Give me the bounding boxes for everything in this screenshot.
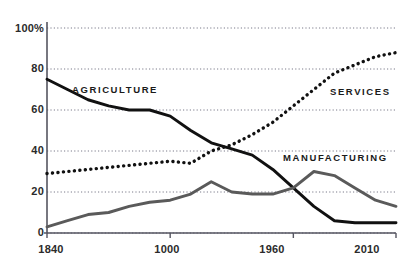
series-label-agriculture: AGRICULTURE bbox=[72, 84, 158, 95]
series-label-manufacturing: MANUFACTURING bbox=[283, 152, 388, 163]
x-tick-label-1900: 1000 bbox=[140, 243, 194, 255]
y-tick-label-100: 100% bbox=[4, 22, 44, 34]
series-label-services: SERVICES bbox=[330, 86, 391, 97]
x-tick-label-2010: 2010 bbox=[340, 243, 394, 255]
series-line-manufacturing bbox=[47, 172, 396, 227]
y-tick-label-40: 40 bbox=[4, 144, 44, 156]
y-tick-label-0: 0 bbox=[4, 226, 44, 238]
x-tick-label-1960: 1960 bbox=[245, 243, 299, 255]
y-tick-label-20: 20 bbox=[4, 185, 44, 197]
chart-plot-area bbox=[0, 0, 417, 268]
y-tick-label-60: 60 bbox=[4, 103, 44, 115]
chart-container: 100% 80 60 40 20 0 1840 1000 1960 2010 A… bbox=[0, 0, 417, 268]
x-tick-label-1840: 1840 bbox=[24, 243, 78, 255]
y-tick-label-80: 80 bbox=[4, 62, 44, 74]
